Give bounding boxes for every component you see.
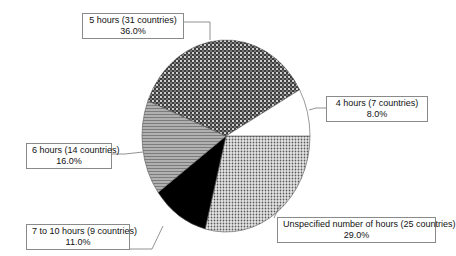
label-4-hours: 4 hours (7 countries) 8.0% <box>326 96 428 122</box>
label-percent: 29.0% <box>283 230 430 241</box>
label-7-to-10-hours: 7 to 10 hours (9 countries) 11.0% <box>26 224 130 250</box>
label-5-hours: 5 hours (31 countries) 36.0% <box>82 13 184 39</box>
label-percent: 11.0% <box>32 237 124 248</box>
label-text: Unspecified number of hours (25 countrie… <box>283 219 430 230</box>
label-unspecified-hours: Unspecified number of hours (25 countrie… <box>277 217 436 243</box>
label-percent: 8.0% <box>332 109 422 120</box>
label-percent: 16.0% <box>32 156 106 167</box>
label-text: 4 hours (7 countries) <box>332 98 422 109</box>
label-6-hours: 6 hours (14 countries) 16.0% <box>26 143 112 169</box>
pie-slices <box>142 40 310 232</box>
label-text: 7 to 10 hours (9 countries) <box>32 226 124 237</box>
label-text: 6 hours (14 countries) <box>32 145 106 156</box>
label-percent: 36.0% <box>88 26 178 37</box>
label-text: 5 hours (31 countries) <box>88 15 178 26</box>
